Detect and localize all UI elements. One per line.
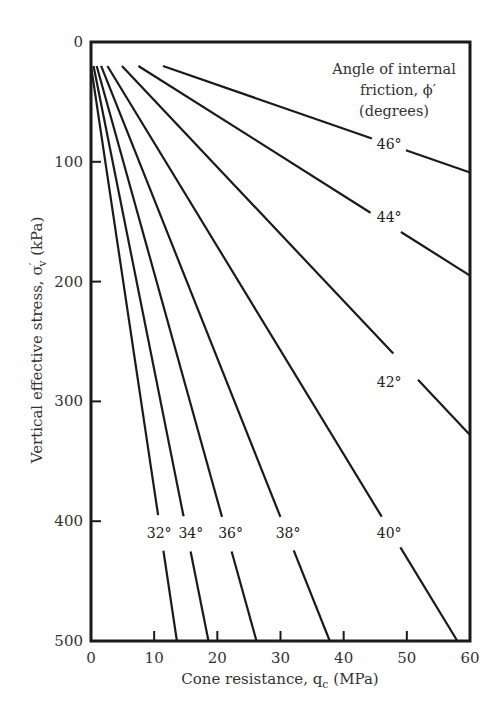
legend-title-line1: Angle of internal bbox=[331, 61, 456, 77]
friction-label-38: 38° bbox=[276, 525, 301, 541]
friction-line-42 bbox=[122, 66, 393, 354]
x-tick-label: 60 bbox=[460, 649, 479, 667]
legend-title-line2: friction, ϕ′ bbox=[360, 82, 436, 98]
friction-line-40 bbox=[400, 547, 457, 641]
friction-line-36 bbox=[232, 552, 257, 641]
friction-line-46 bbox=[406, 150, 470, 172]
friction-label-42: 42° bbox=[377, 374, 402, 390]
y-tick-label: 100 bbox=[54, 153, 83, 171]
friction-line-42 bbox=[418, 380, 470, 435]
friction-line-44 bbox=[401, 232, 470, 276]
y-tick-label: 500 bbox=[54, 632, 83, 650]
x-axis-title: Cone resistance, qc (MPa) bbox=[181, 670, 378, 691]
y-tick-label: 400 bbox=[54, 512, 83, 530]
friction-line-38 bbox=[294, 550, 330, 641]
x-tick-label: 30 bbox=[271, 649, 290, 667]
x-tick-label: 10 bbox=[145, 649, 164, 667]
friction-line-44 bbox=[138, 66, 370, 213]
y-tick-label: 300 bbox=[54, 392, 83, 410]
y-tick-label: 0 bbox=[73, 33, 83, 51]
y-axis-ticks: 0100200300400500 bbox=[54, 33, 101, 650]
y-axis-title: Vertical effective stress, σ′v (kPa) bbox=[27, 217, 49, 465]
friction-angle-lines bbox=[91, 66, 470, 641]
friction-label-40: 40° bbox=[377, 525, 402, 541]
friction-line-38 bbox=[101, 66, 280, 517]
friction-label-46: 46° bbox=[377, 136, 402, 152]
friction-label-34: 34° bbox=[178, 525, 203, 541]
x-axis-ticks: 0102030405060 bbox=[86, 631, 479, 667]
friction-line-34 bbox=[191, 552, 209, 641]
legend-title-line3: (degrees) bbox=[359, 103, 429, 119]
legend-title: Angle of internal friction, ϕ′ (degrees) bbox=[331, 61, 456, 119]
chart-canvas: 32°34°36°38°40°42°44°46° 0102030405060 0… bbox=[0, 0, 504, 721]
x-tick-label: 50 bbox=[397, 649, 416, 667]
x-tick-label: 20 bbox=[208, 649, 227, 667]
friction-label-32: 32° bbox=[147, 525, 172, 541]
friction-label-36: 36° bbox=[218, 525, 243, 541]
x-tick-label: 40 bbox=[334, 649, 353, 667]
friction-label-44: 44° bbox=[377, 209, 402, 225]
friction-line-34 bbox=[94, 66, 184, 516]
friction-line-32 bbox=[163, 551, 176, 641]
y-tick-label: 200 bbox=[54, 273, 83, 291]
friction-line-36 bbox=[97, 66, 222, 517]
x-tick-label: 0 bbox=[86, 649, 96, 667]
